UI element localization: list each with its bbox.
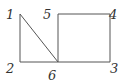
edge-1-6: [20, 14, 58, 62]
node-label-3: 3: [110, 61, 118, 76]
node-label-1: 1: [6, 7, 14, 22]
node-label-5: 5: [43, 7, 51, 22]
node-label-4: 4: [108, 7, 117, 22]
graph-diagram: 1 2 3 4 5 6: [0, 0, 122, 83]
edges-group: [20, 14, 110, 62]
node-label-6: 6: [48, 68, 56, 83]
node-label-2: 2: [5, 61, 14, 76]
labels-group: 1 2 3 4 5 6: [5, 7, 118, 83]
